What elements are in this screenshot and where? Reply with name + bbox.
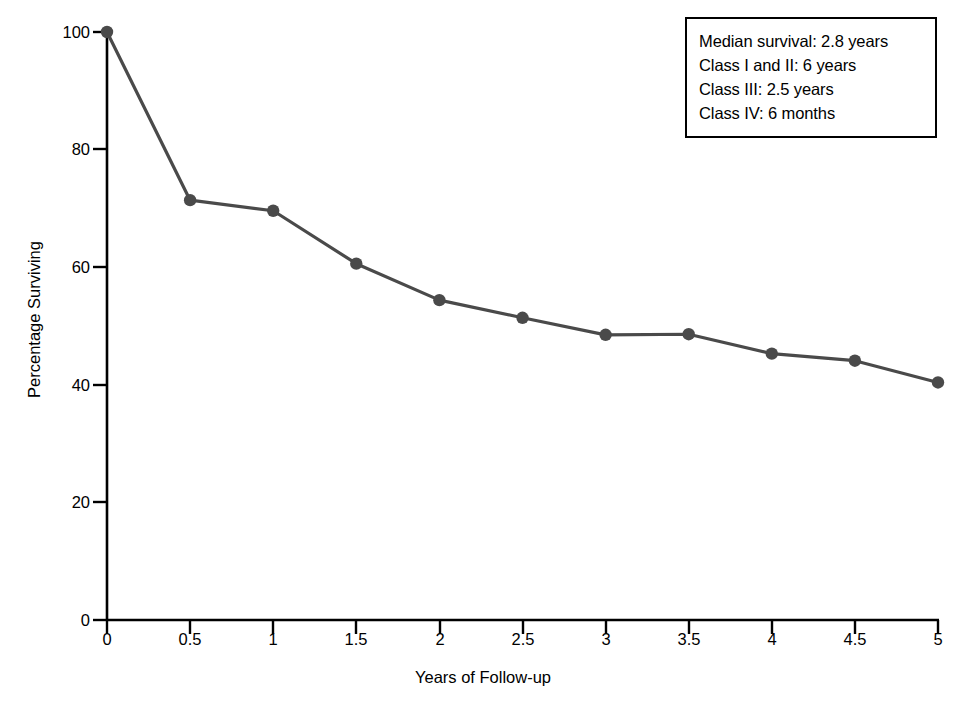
x-tick-label-1-5: 1.5 <box>345 630 368 649</box>
data-point <box>932 376 944 388</box>
annotation-line-class-i-ii: Class I and II: 6 years <box>699 53 923 77</box>
data-point <box>849 354 861 366</box>
data-point <box>184 194 196 206</box>
y-tick-label-0: 0 <box>48 611 90 630</box>
x-axis-title: Years of Follow-up <box>0 668 966 687</box>
y-tick-label-100: 100 <box>48 23 90 42</box>
data-point <box>267 205 279 217</box>
x-tick-label-3: 3 <box>601 630 610 649</box>
x-tick-label-3-5: 3.5 <box>678 630 701 649</box>
data-point <box>350 257 362 269</box>
data-point <box>599 329 611 341</box>
y-axis-title: Percentage Surviving <box>25 200 44 440</box>
y-axis-tick-labels: 0 20 40 60 80 100 <box>42 0 90 704</box>
x-axis-tick-labels: 0 0.5 1 1.5 2 2.5 3 3.5 4 4.5 5 <box>0 630 966 656</box>
y-tick-label-80: 80 <box>48 140 90 159</box>
x-tick-label-1: 1 <box>268 630 277 649</box>
survival-curve-figure: 0 20 40 60 80 100 0 0.5 1 1.5 2 2.5 3 3.… <box>0 0 966 704</box>
y-tick-label-20: 20 <box>48 493 90 512</box>
y-tick-label-60: 60 <box>48 258 90 277</box>
x-tick-label-5: 5 <box>933 630 942 649</box>
x-tick-label-0-5: 0.5 <box>179 630 202 649</box>
x-tick-label-2: 2 <box>435 630 444 649</box>
annotation-line-class-iii: Class III: 2.5 years <box>699 77 923 101</box>
x-tick-label-4: 4 <box>767 630 776 649</box>
annotation-line-class-iv: Class IV: 6 months <box>699 101 923 125</box>
x-tick-label-0: 0 <box>102 630 111 649</box>
data-point <box>766 347 778 359</box>
data-point <box>433 294 445 306</box>
data-point <box>683 328 695 340</box>
x-tick-label-4-5: 4.5 <box>844 630 867 649</box>
x-tick-label-2-5: 2.5 <box>512 630 535 649</box>
y-axis-ticks <box>93 32 107 620</box>
data-point <box>101 26 113 38</box>
y-tick-label-40: 40 <box>48 376 90 395</box>
annotation-box: Median survival: 2.8 years Class I and I… <box>685 17 937 138</box>
annotation-line-median-survival: Median survival: 2.8 years <box>699 29 923 53</box>
data-point <box>516 312 528 324</box>
